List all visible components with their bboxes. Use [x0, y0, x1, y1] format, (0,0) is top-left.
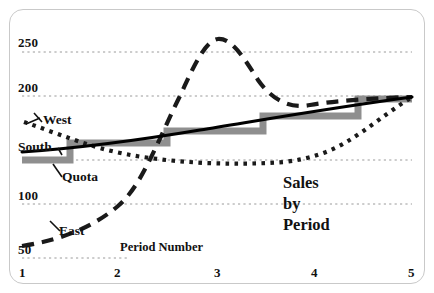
west-leader-line: [26, 113, 42, 124]
x-tick-3: 3: [214, 266, 221, 279]
chart-plot-area: [0, 0, 434, 293]
chart-title: Sales by Period: [283, 172, 330, 235]
chart-title-line-2: by: [283, 193, 330, 214]
y-tick-250: 250: [18, 36, 38, 49]
series-label-east: East: [59, 224, 85, 238]
x-tick-4: 4: [311, 266, 318, 279]
quota-leader-line: [53, 164, 62, 177]
series-label-south: South: [18, 140, 52, 154]
sales-by-period-chart: 250 200 100 50 1 2 3 4 5 Period Number W…: [0, 0, 434, 293]
x-tick-1: 1: [19, 266, 26, 279]
x-tick-5: 5: [408, 266, 415, 279]
series-label-quota: Quota: [62, 170, 98, 184]
y-tick-200: 200: [18, 81, 38, 94]
y-tick-100: 100: [18, 189, 38, 202]
series-quota-step: [22, 99, 412, 160]
x-tick-2: 2: [114, 266, 121, 279]
chart-title-line-3: Period: [283, 214, 330, 235]
x-axis-title: Period Number: [120, 241, 203, 254]
chart-title-line-1: Sales: [283, 172, 330, 193]
series-label-west: West: [43, 113, 72, 127]
y-tick-50: 50: [18, 243, 31, 256]
label-leaders: [26, 113, 62, 231]
